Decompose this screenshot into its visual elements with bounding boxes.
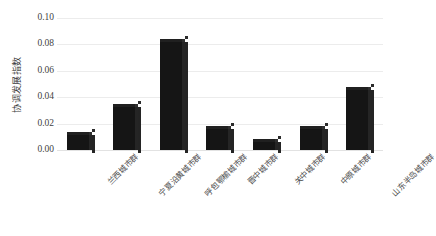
bar-top-face [231,123,234,126]
bar-side-face [325,129,328,153]
bar[interactable] [253,139,278,150]
bar-slot [57,18,104,150]
bar-side-face [185,42,188,153]
bar-slot [104,18,151,150]
bar[interactable] [67,132,92,150]
y-tick-label: 0.08 [18,39,54,49]
bar-top-face [325,123,328,126]
bar-slot [290,18,337,150]
bar[interactable] [346,87,371,150]
bar[interactable] [300,126,325,150]
bar-slot [336,18,383,150]
bar[interactable] [160,39,185,150]
bar-top-face [138,101,141,104]
y-tick-label: 0.06 [18,66,54,76]
bar-slot [150,18,197,150]
x-axis-tick-labels: 兰西城市群宁夏沿黄城市群呼包鄂榆城市群晋中城市群关中城市群中原城市群山东半岛城市… [57,152,383,218]
caption-strip [0,224,391,236]
bar-side-face [371,90,374,153]
plot-area [57,18,383,150]
x-tick-label: 宁夏沿黄城市群 [157,152,203,198]
x-tick-label: 呼包鄂榆城市群 [204,152,250,198]
x-tick-label: 晋中城市群 [246,152,281,187]
y-axis-tick-labels: 0.000.020.040.060.080.10 [18,14,54,150]
bar-top-face [371,84,374,87]
bar[interactable] [113,104,138,150]
bar-slot [243,18,290,150]
bar-slot [197,18,244,150]
bar-top-face [185,36,188,39]
axis-baseline [57,150,383,151]
x-tick-label: 中原城市群 [339,152,374,187]
y-tick-label: 0.00 [18,145,54,155]
bar-top-face [92,129,95,132]
x-tick-label: 兰西城市群 [106,152,141,187]
x-tick-label: 关中城市群 [292,152,327,187]
bar-side-face [92,135,95,153]
y-tick-label: 0.10 [18,13,54,23]
y-tick-label: 0.04 [18,92,54,102]
x-tick-label: 山东半岛城市群 [390,152,436,198]
bar-side-face [231,129,234,153]
bar-top-face [278,136,281,139]
bar-side-face [138,107,141,153]
y-tick-label: 0.02 [18,119,54,129]
bar[interactable] [206,126,231,150]
bars-group [57,18,383,150]
